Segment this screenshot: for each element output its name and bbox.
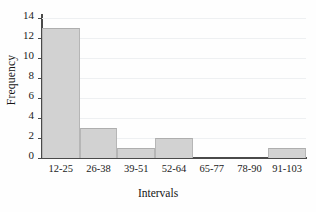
plot-area bbox=[42, 18, 306, 158]
x-tick-label-65-77: 65-77 bbox=[193, 163, 231, 175]
x-tick-label-78-90: 78-90 bbox=[231, 163, 269, 175]
bar-26-38 bbox=[80, 128, 118, 158]
y-tick-0: 0 bbox=[0, 158, 42, 159]
x-tick-label-12-25: 12-25 bbox=[42, 163, 80, 175]
y-tick-mark bbox=[38, 118, 42, 119]
y-axis-title: Frequency bbox=[2, 0, 20, 160]
y-tick-mark bbox=[38, 38, 42, 39]
gridline bbox=[42, 38, 306, 39]
y-tick-label: 10 bbox=[23, 50, 34, 61]
x-tick-label-52-64: 52-64 bbox=[155, 163, 193, 175]
gridline bbox=[42, 18, 306, 19]
y-tick-mark bbox=[38, 158, 42, 159]
bar-12-25 bbox=[42, 28, 80, 158]
y-tick-label: 4 bbox=[29, 110, 35, 121]
bar-91-103 bbox=[268, 148, 306, 158]
y-tick-8: 8 bbox=[0, 78, 42, 79]
gridline bbox=[42, 58, 306, 59]
y-tick-label: 0 bbox=[29, 150, 35, 161]
y-tick-6: 6 bbox=[0, 98, 42, 99]
x-tick-label-39-51: 39-51 bbox=[117, 163, 155, 175]
y-tick-mark bbox=[38, 138, 42, 139]
x-tick-label-91-103: 91-103 bbox=[268, 163, 306, 175]
y-tick-label: 2 bbox=[29, 130, 35, 141]
y-tick-4: 4 bbox=[0, 118, 42, 119]
y-tick-mark bbox=[38, 98, 42, 99]
y-tick-mark bbox=[38, 18, 42, 19]
y-tick-10: 10 bbox=[0, 58, 42, 59]
y-tick-12: 12 bbox=[0, 38, 42, 39]
x-tick-label-26-38: 26-38 bbox=[80, 163, 118, 175]
y-tick-label: 8 bbox=[29, 70, 35, 81]
y-tick-14: 14 bbox=[0, 18, 42, 19]
y-tick-label: 6 bbox=[29, 90, 35, 101]
y-tick-mark bbox=[38, 58, 42, 59]
y-tick-2: 2 bbox=[0, 138, 42, 139]
gridline bbox=[42, 98, 306, 99]
y-tick-label: 12 bbox=[23, 30, 34, 41]
x-axis-title: Intervals bbox=[0, 187, 316, 199]
bar-39-51 bbox=[117, 148, 155, 158]
bar-52-64 bbox=[155, 138, 193, 158]
y-tick-label: 14 bbox=[23, 10, 34, 21]
gridline bbox=[42, 78, 306, 79]
gridline bbox=[42, 118, 306, 119]
histogram-chart: Frequency 02468101214 12-2526-3839-5152-… bbox=[0, 0, 316, 212]
y-tick-mark bbox=[38, 78, 42, 79]
